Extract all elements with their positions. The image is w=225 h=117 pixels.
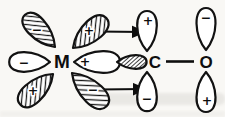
m-d-lobe-left	[9, 52, 50, 72]
phase-sign-m-right: +	[80, 54, 90, 69]
phase-sign-m-upper-right: +	[84, 23, 94, 38]
carbon-atom-label: C	[149, 53, 161, 72]
phase-sign-c-bottom: −	[142, 91, 152, 106]
diagram-svg: M C O − − + + + − + − − +	[0, 0, 225, 117]
phase-sign-m-lower-left: +	[28, 83, 38, 98]
phase-sign-o-bottom: +	[202, 93, 212, 108]
phase-sign-o-top: −	[201, 10, 211, 25]
mo-bonding-diagram: M C O − − + + + − + − − +	[0, 0, 225, 117]
metal-atom-label: M	[54, 51, 70, 72]
phase-sign-m-left: −	[19, 55, 29, 70]
c-sigma-lone-pair-lobe	[117, 55, 147, 69]
scan-artifact-bottom-edge	[0, 111, 225, 117]
oxygen-atom-label: O	[199, 53, 212, 72]
phase-sign-m-lower-right: −	[88, 82, 98, 97]
phase-sign-m-upper-left: −	[32, 22, 42, 37]
phase-sign-c-top: +	[143, 13, 153, 28]
